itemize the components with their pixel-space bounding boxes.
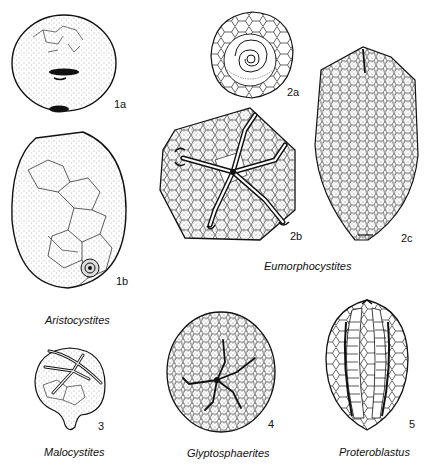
figure-label-2a: 2a — [287, 86, 299, 98]
figure-label-4: 4 — [268, 418, 274, 430]
figure-label-2b: 2b — [290, 230, 302, 242]
figure-label-1b: 1b — [116, 275, 128, 287]
figure-2a-eumorphocystites-oral — [207, 10, 297, 100]
genus-label-glyptosphaerites: Glyptosphaerites — [187, 447, 270, 459]
figure-label-5: 5 — [409, 418, 415, 430]
figure-2b-eumorphocystites-arms — [155, 100, 305, 245]
figure-3-malocystites — [33, 345, 108, 435]
genus-label-malocystites: Malocystites — [44, 446, 105, 458]
figure-1b-aristocystites-lateral — [8, 130, 128, 290]
figure-label-1a: 1a — [114, 98, 126, 110]
genus-label-proteroblastus: Proteroblastus — [339, 446, 410, 458]
figure-label-2c: 2c — [401, 232, 413, 244]
figure-5-proteroblastus — [322, 298, 412, 433]
genus-label-aristocystites: Aristocystites — [45, 314, 110, 326]
genus-label-eumorphocystites: Eumorphocystites — [264, 260, 351, 272]
figure-1a-aristocystites-oral — [8, 12, 120, 114]
figure-4-glyptosphaerites — [165, 310, 277, 435]
fossil-plate: 1a 1b Aristocystites 2a — [0, 0, 430, 465]
figure-2c-eumorphocystites-lateral — [313, 45, 423, 245]
figure-label-3: 3 — [98, 420, 104, 432]
